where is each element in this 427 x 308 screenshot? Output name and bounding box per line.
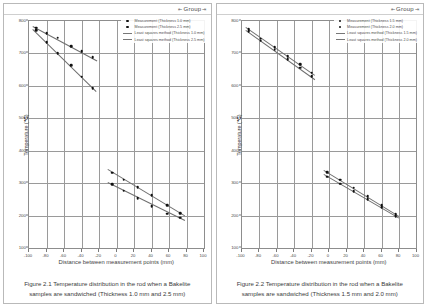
grid-line-horizontal [242, 53, 417, 54]
data-point [166, 204, 169, 207]
y-axis-tick [26, 247, 28, 248]
legend-line-icon [123, 33, 132, 34]
legend-marker-glyph [123, 33, 132, 34]
legend-dot-icon [123, 26, 132, 28]
x-axis-tick [81, 249, 82, 252]
legend-dot-icon [336, 26, 345, 28]
legend-item: Measurement (Thickness 1.5 mm) [336, 19, 417, 23]
x-axis-tick [133, 249, 134, 252]
y-axis-tick [26, 214, 28, 215]
x-axis-tick-label: 100 [412, 253, 419, 258]
y-axis-tick [239, 52, 241, 53]
y-axis-tick-label: 300 [19, 180, 26, 185]
x-axis-tick-label: -40 [77, 253, 83, 258]
chart-area-1: -100-80-60-40-20020406080100100200300400… [6, 16, 209, 273]
trend-line [107, 169, 185, 216]
grid-line-horizontal [242, 151, 417, 152]
legend-item: Least squares method (Thickness 1.0 mm) [123, 31, 204, 35]
x-axis-tick [116, 249, 117, 252]
group-label-2: Group [396, 6, 414, 12]
plot-canvas-2 [241, 20, 418, 249]
x-axis-tick-label: -80 [42, 253, 48, 258]
chart-area-2: -100-80-60-40-20020406080100100200300400… [219, 16, 422, 273]
y-axis-tick-label: 100 [231, 245, 238, 250]
y-axis-tick-label: 600 [231, 82, 238, 87]
grid-line-vertical [134, 21, 135, 248]
y-axis-tick [26, 182, 28, 183]
trend-line [245, 27, 315, 76]
legend-item: Measurement (Thickness 1.0 mm) [123, 19, 204, 23]
grid-line-vertical [277, 21, 278, 248]
group-right-arrow-icon: ⇥ [414, 6, 420, 12]
x-axis-tick [186, 249, 187, 252]
legend-dot-icon [123, 20, 132, 22]
data-point [247, 30, 250, 33]
legend-marker-glyph [339, 26, 341, 28]
grid-line-vertical [47, 21, 48, 248]
x-axis-tick [63, 249, 64, 252]
grid-line-vertical [382, 21, 383, 248]
x-axis-title-2: Distance between measurement points (mm) [241, 259, 418, 265]
x-axis-tick-label: 80 [183, 253, 188, 258]
x-axis-tick [241, 249, 242, 252]
grid-line-horizontal [242, 183, 417, 184]
legend-marker-glyph [339, 20, 341, 22]
data-point [326, 171, 329, 174]
x-axis-tick-label: 0 [114, 253, 116, 258]
legend-item: Least squares method (Thickness 2.5 mm) [123, 38, 204, 42]
x-axis-tick-label: -20 [307, 253, 313, 258]
grid-line-vertical [99, 21, 100, 248]
grid-line-horizontal [29, 118, 204, 119]
x-axis-tick-label: 80 [396, 253, 401, 258]
data-point [136, 186, 139, 189]
trend-line [107, 182, 184, 221]
data-point [166, 212, 169, 215]
data-point [394, 215, 397, 218]
x-axis-tick [416, 249, 417, 252]
data-point [287, 58, 290, 61]
data-point [70, 64, 73, 67]
x-axis-tick-label: -80 [255, 253, 261, 258]
y-axis-tick [239, 84, 241, 85]
x-axis-tick [346, 249, 347, 252]
x-axis-tick [363, 249, 364, 252]
x-axis-tick [258, 249, 259, 252]
legend-marker-glyph [126, 20, 128, 22]
data-point [259, 39, 262, 42]
legend-item-label: Measurement (Thickness 2.5 mm) [135, 25, 191, 29]
data-point [80, 75, 83, 78]
grid-line-horizontal [29, 183, 204, 184]
x-axis-tick-label: 20 [131, 253, 136, 258]
group-bar-2: ⇤ Group ⇥ [217, 4, 424, 15]
data-point [92, 56, 95, 59]
grid-line-horizontal [29, 86, 204, 87]
legend-item-label: Measurement (Thickness 1.5 mm) [347, 19, 403, 23]
trend-line [323, 174, 399, 219]
x-axis-tick [293, 249, 294, 252]
data-point [352, 190, 355, 193]
data-point [57, 52, 60, 55]
legend-item: Measurement (Thickness 2.5 mm) [123, 25, 204, 29]
x-axis-tick [203, 249, 204, 252]
data-point [339, 182, 342, 185]
data-point [310, 75, 313, 78]
y-axis-tick-label: 800 [231, 18, 238, 23]
figure-panel-1: ⇤ Group ⇥ -100-80-60-40-2002040608010010… [3, 3, 212, 304]
grid-line-vertical [259, 21, 260, 248]
legend-item-label: Least squares method (Thickness 2.5 mm) [135, 38, 205, 42]
y-axis-tick [239, 247, 241, 248]
grid-line-vertical [64, 21, 65, 248]
data-point [57, 36, 60, 39]
data-point [70, 45, 73, 48]
data-point [299, 66, 302, 69]
x-axis-title-1: Distance between measurement points (mm) [28, 259, 205, 265]
y-axis-tick-label: 100 [19, 245, 26, 250]
data-point [111, 171, 114, 174]
grid-line-vertical [82, 21, 83, 248]
grid-line-vertical [329, 21, 330, 248]
data-point [299, 63, 302, 66]
grid-line-vertical [399, 21, 400, 248]
x-axis-tick-label: -60 [272, 253, 278, 258]
y-axis-tick [239, 182, 241, 183]
y-axis-title-2: Temperature (℃) [236, 114, 242, 155]
